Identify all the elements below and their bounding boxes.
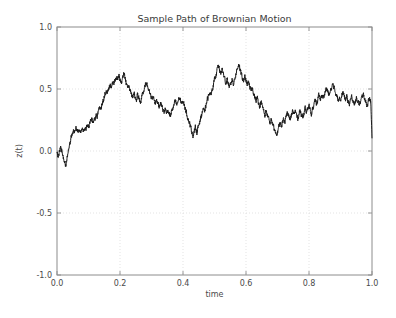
x-tick-label: 1.0 xyxy=(366,279,379,288)
y-axis-label: z(t) xyxy=(15,144,24,158)
x-tick-label: 0.6 xyxy=(240,279,253,288)
x-tick-label: 0.8 xyxy=(303,279,316,288)
y-tick-label: 0.0 xyxy=(39,147,52,156)
y-tick-label: -0.5 xyxy=(36,209,52,218)
y-tick-label: 0.5 xyxy=(39,85,52,94)
x-tick-label: 0.4 xyxy=(177,279,190,288)
x-axis-label: time xyxy=(205,290,223,299)
chart-figure: 0.00.20.40.60.81.0 -1.0-0.50.00.51.0 Sam… xyxy=(0,0,396,318)
y-tick-label: 1.0 xyxy=(39,23,52,32)
y-tick-label: -1.0 xyxy=(36,271,52,280)
chart-title: Sample Path of Brownian Motion xyxy=(137,13,291,24)
x-tick-label: 0.0 xyxy=(51,279,64,288)
brownian-motion-chart: 0.00.20.40.60.81.0 -1.0-0.50.00.51.0 Sam… xyxy=(0,0,396,318)
x-tick-label: 0.2 xyxy=(114,279,127,288)
